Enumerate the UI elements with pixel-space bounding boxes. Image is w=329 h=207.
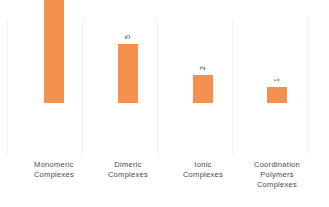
bar-value-text: 5 [124,35,132,39]
bar-value-text: 2 [199,66,207,70]
bar-group[interactable]: 1 [267,87,287,103]
bar[interactable] [44,0,64,103]
plot-area: 11 5 2 1 [0,0,329,155]
bar[interactable] [193,75,213,103]
bar-group[interactable]: 5 [118,44,138,103]
bar-value-text: 1 [273,78,281,82]
bar-value-label: 5 [118,33,138,41]
bar-value-label: 2 [193,64,213,72]
bar[interactable] [118,44,138,103]
bar-group[interactable]: 2 [193,75,213,103]
bar-chart: 11 5 2 1 Monomeric Complexes Dimer [0,0,329,207]
bar-value-label: 1 [267,76,287,84]
bar[interactable] [267,87,287,103]
category-label: Coordination Polymers Complexes [229,160,325,190]
bar-group[interactable]: 11 [44,0,64,103]
